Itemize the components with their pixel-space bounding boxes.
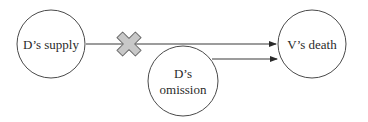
causation-diagram: D’s supply D’s omission V’s death [0, 0, 368, 122]
node-label-omission-line1: D’s [174, 66, 192, 81]
node-label-supply: D’s supply [23, 37, 79, 52]
node-label-death: V’s death [287, 37, 337, 52]
node-ds-omission: D’s omission [148, 46, 218, 116]
node-ds-supply: D’s supply [17, 10, 85, 78]
node-label-omission-line2: omission [160, 82, 207, 97]
node-vs-death: V’s death [278, 10, 346, 78]
